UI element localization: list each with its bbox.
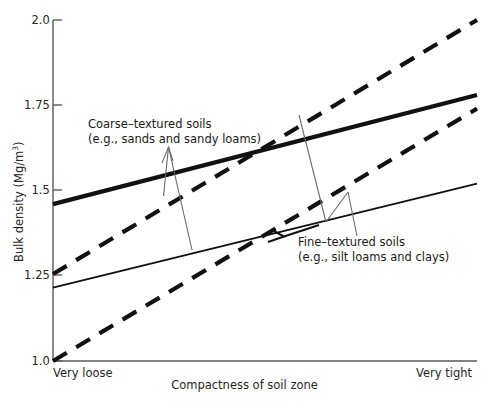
annotation-coarse-textured-soils: Coarse–textured soils (e.g., sands and s… xyxy=(88,117,261,146)
y-tick-label-2: 2.0 xyxy=(6,13,50,27)
annotation-coarse-line2: (e.g., sands and sandy loams) xyxy=(88,132,261,147)
chart-figure: 2.0 1.75 1.5 1.25 1.0 Very loose Very ti… xyxy=(0,0,489,409)
series-coarse-upper xyxy=(53,95,477,204)
annotation-fine-line2: (e.g., silt loams and clays) xyxy=(298,250,449,265)
series-group xyxy=(53,20,477,361)
y-tick-label-1: 1.0 xyxy=(6,354,50,368)
x-axis-title: Compactness of soil zone xyxy=(0,378,489,392)
y-tick-label-1_25: 1.25 xyxy=(6,268,50,282)
coarse-leader-to-lower xyxy=(169,147,193,250)
y-axis-title-exponent: 3 xyxy=(11,146,20,151)
axis-group xyxy=(53,20,477,361)
annotation-fine-line1: Fine–textured soils xyxy=(298,235,449,250)
y-axis-title-main: Bulk density (Mg/m xyxy=(12,151,26,262)
chart-plot-area xyxy=(0,0,489,409)
y-tick-label-1_75: 1.75 xyxy=(6,98,50,112)
annotation-fine-textured-soils: Fine–textured soils (e.g., silt loams an… xyxy=(298,235,449,264)
y-axis-title-tail: ) xyxy=(12,141,26,146)
y-axis-title: Bulk density (Mg/m3) xyxy=(12,141,26,262)
annotation-coarse-line1: Coarse–textured soils xyxy=(88,117,261,132)
